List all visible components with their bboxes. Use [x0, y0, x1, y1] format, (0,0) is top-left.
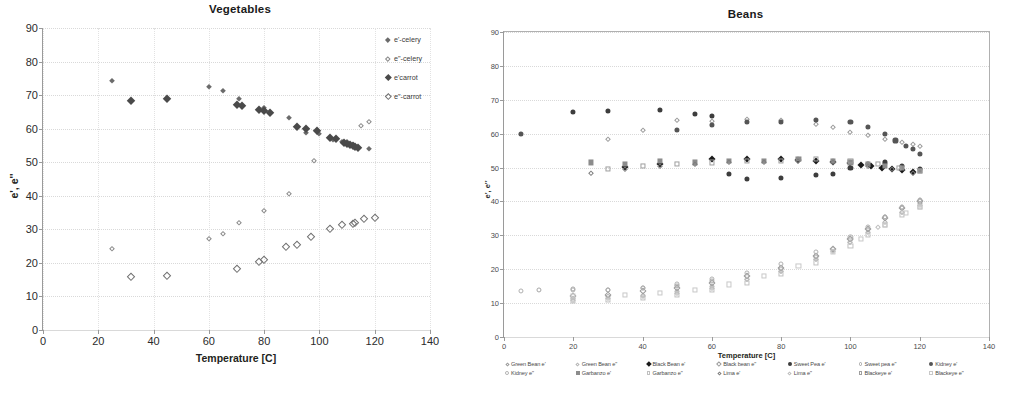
data-point — [813, 172, 818, 177]
x-tick-mark — [154, 330, 155, 334]
data-point — [605, 136, 610, 141]
data-point — [709, 113, 714, 118]
legend-item: Lima e" — [786, 370, 857, 376]
y-tick-mark — [500, 303, 504, 304]
data-point — [326, 225, 335, 234]
legend-label: Kidney e' — [935, 361, 957, 367]
data-point — [831, 124, 836, 129]
x-axis-label-beans: Temperature [C] — [503, 351, 990, 360]
legend-marker-diamond-filled-icon — [644, 362, 652, 366]
data-point — [865, 233, 870, 238]
data-point — [657, 290, 662, 295]
data-point — [307, 232, 316, 241]
x-tick-label: 60 — [203, 335, 215, 347]
legend-label: Blackeye e' — [865, 370, 892, 376]
y-tick-mark — [500, 134, 504, 135]
x-tick-label: 40 — [638, 342, 646, 351]
x-tick-mark — [98, 330, 99, 334]
gridline-horizontal — [504, 303, 989, 304]
x-tick-label: 140 — [983, 342, 996, 351]
legend-grid: Green Bean e'Green Bean e"Black Bean e'B… — [503, 361, 998, 376]
data-point — [605, 108, 610, 113]
legend-label: Black Bean e' — [652, 361, 685, 367]
data-point — [127, 96, 136, 105]
data-point — [883, 131, 888, 136]
gridline-vertical — [98, 28, 99, 330]
y-tick-label: 70 — [491, 95, 499, 104]
data-point — [917, 204, 922, 209]
data-point — [692, 287, 697, 292]
data-point — [261, 208, 267, 214]
data-point — [359, 215, 368, 224]
x-tick-label: 20 — [92, 335, 104, 347]
y-tick-label: 30 — [491, 231, 499, 240]
data-point — [779, 175, 784, 180]
x-axis-label-vegetables: Temperature [C] — [42, 352, 430, 364]
data-point — [293, 123, 302, 132]
y-tick-mark — [500, 168, 504, 169]
data-point — [238, 101, 247, 110]
panel-vegetables: Vegetables 01020304050607080900204060801… — [0, 0, 480, 396]
data-point — [675, 162, 680, 167]
data-point — [896, 165, 901, 170]
legend-label: Garbanzo e" — [652, 370, 682, 376]
y-tick-label: 60 — [491, 129, 499, 138]
legend-item: Green Bean e' — [503, 361, 574, 367]
data-point — [293, 241, 302, 250]
legend-item: e'carrot — [382, 68, 478, 87]
data-point — [163, 95, 172, 104]
y-tick-label: 0 — [495, 333, 499, 342]
y-tick-label: 80 — [491, 61, 499, 70]
data-point — [286, 115, 292, 121]
data-point — [605, 287, 610, 292]
legend-item: Garbanzo e" — [644, 370, 715, 376]
legend-marker-diamond-open-icon — [715, 362, 723, 366]
y-axis-label-beans: e', e'' — [483, 170, 492, 210]
legend-item: Blackeye e" — [927, 370, 998, 376]
data-point — [519, 289, 524, 294]
data-point — [519, 131, 524, 136]
y-tick-mark — [500, 66, 504, 67]
y-tick-label: 50 — [491, 163, 499, 172]
data-point — [588, 160, 593, 165]
figure-two-panel-scatter: Vegetables 01020304050607080900204060801… — [0, 0, 1011, 396]
gridline-vertical — [319, 28, 320, 330]
data-point — [831, 171, 836, 176]
data-point — [675, 128, 680, 133]
data-point — [917, 143, 922, 148]
legend-item: Lima e' — [715, 370, 786, 376]
data-point — [366, 119, 372, 125]
y-tick-label: 20 — [491, 265, 499, 274]
data-point — [727, 282, 732, 287]
y-axis-label-vegetables: e', e'' — [8, 166, 20, 206]
gridline-horizontal — [43, 229, 430, 230]
x-tick-label: 100 — [310, 335, 328, 347]
legend-label: Sweet Pea e' — [794, 361, 826, 367]
x-tick-mark — [209, 330, 210, 334]
data-point — [571, 294, 576, 299]
legend-label: Lima e' — [723, 370, 740, 376]
legend-marker-circle-open-icon — [503, 371, 511, 375]
y-tick-label: 30 — [26, 223, 38, 235]
legend-label: Lima e" — [794, 370, 812, 376]
data-point — [893, 138, 898, 143]
data-point — [779, 119, 784, 124]
data-point — [813, 118, 818, 123]
data-point — [571, 109, 576, 114]
legend-label: e"-carrot — [394, 92, 421, 101]
y-tick-mark — [500, 201, 504, 202]
gridline-horizontal — [43, 296, 430, 297]
data-point — [640, 128, 645, 133]
x-tick-mark — [920, 337, 921, 341]
legend-marker-diamond-small-open-icon — [382, 57, 394, 61]
legend-item: e"-celery — [382, 49, 478, 68]
legend-marker-diamond-open-icon — [382, 94, 394, 99]
data-point — [876, 224, 881, 229]
data-point — [744, 177, 749, 182]
x-tick-label: 100 — [844, 342, 857, 351]
data-point — [761, 160, 766, 165]
data-point — [623, 292, 628, 297]
gridline-horizontal — [504, 100, 989, 101]
data-point — [831, 250, 836, 255]
x-tick-mark — [264, 330, 265, 334]
